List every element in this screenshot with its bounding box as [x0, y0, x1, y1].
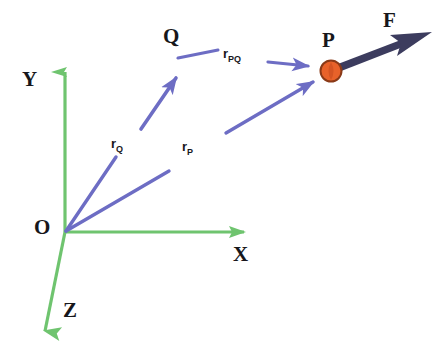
vector-rq-group	[66, 50, 218, 231]
point-label-p: P	[322, 30, 335, 51]
vector-label-rpq-subscript: PQ	[228, 54, 241, 64]
origin-label: O	[34, 217, 51, 238]
force-label: F	[383, 10, 396, 31]
vector-label-rq: rQ	[111, 137, 123, 154]
vector-label-rp: rP	[182, 140, 193, 157]
point-label-q: Q	[163, 26, 180, 47]
axis-label-x: X	[233, 244, 249, 265]
vector-rq-shaft-upper	[141, 78, 176, 129]
vector-label-rp-subscript: P	[187, 147, 193, 157]
vector-diagram: Y X Z O Q P F rQ rP rPQ	[0, 0, 447, 362]
vector-label-rq-subscript: Q	[116, 144, 123, 154]
vector-q-tick	[178, 50, 218, 58]
vector-rq-shaft-lower	[66, 157, 116, 231]
axis-label-z: Z	[63, 300, 78, 321]
vector-rpq-shaft	[268, 62, 308, 66]
vector-force-group	[330, 32, 432, 75]
z-axis-line	[45, 232, 65, 331]
axis-label-y: Y	[22, 69, 38, 90]
vector-rpq-group	[268, 62, 308, 66]
point-p-marker	[321, 61, 342, 82]
axes-group	[45, 72, 244, 331]
vector-label-rpq: rPQ	[223, 47, 241, 64]
vector-rp-shaft-upper	[226, 82, 313, 133]
vector-rp-shaft-lower	[66, 171, 169, 231]
